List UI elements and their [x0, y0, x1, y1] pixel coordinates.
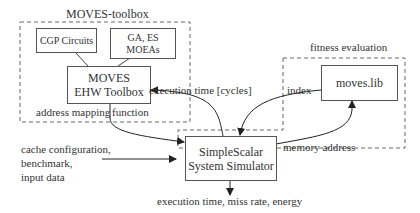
ga-es-moeas-box: GA, ES MOEAs: [110, 28, 176, 59]
fitness-group-title: fitness evaluation: [310, 41, 387, 53]
ehw-toolbox-label: EHW Toolbox: [74, 85, 144, 99]
moves-label: MOVES: [88, 71, 130, 85]
cgp-circuits-box: CGP Circuits: [36, 28, 97, 53]
execution-time-label: execution time [cycles]: [149, 84, 252, 96]
memory-address-label: memory address: [283, 141, 355, 153]
inputs-label-line2: benchmark,: [21, 157, 73, 169]
toolbox-group-title: MOVES-toolbox: [66, 8, 149, 20]
moves-lib-label: moves.lib: [336, 76, 383, 90]
moves-ehw-toolbox-box: MOVES EHW Toolbox: [67, 66, 151, 104]
index-arrow: [240, 90, 321, 135]
memory-address-arrow: [276, 101, 352, 144]
cgp-circuits-label: CGP Circuits: [40, 35, 93, 47]
moeas-label: MOEAs: [126, 44, 159, 56]
system-simulator-label: System Simulator: [188, 159, 274, 173]
cgp-to-ehw-connector: [75, 52, 88, 66]
moves-lib-box: moves.lib: [321, 65, 398, 101]
simplescalar-label: SimpleScalar: [199, 145, 263, 159]
simplescalar-box: SimpleScalar System Simulator: [185, 136, 277, 181]
function-label: function: [112, 106, 149, 118]
address-mapping-label: address mapping: [36, 106, 110, 118]
outputs-label: execution time, miss rate, energy: [157, 195, 302, 207]
index-label: index: [287, 84, 311, 96]
inputs-label-line1: cache configuration,: [21, 143, 111, 155]
ga-to-ehw-connector: [118, 58, 130, 66]
inputs-label-line3: input data: [21, 171, 65, 183]
ga-es-label: GA, ES: [127, 32, 158, 44]
execution-time-arrow: [151, 90, 223, 136]
